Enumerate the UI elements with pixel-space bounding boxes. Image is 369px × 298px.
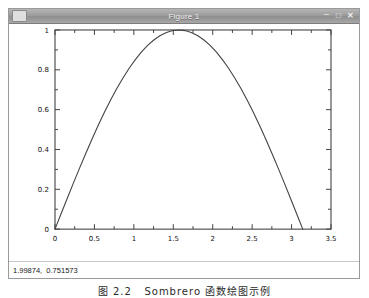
x-axis-tick-label: 2.5 xyxy=(247,235,258,243)
y-axis-tick-label: 0.2 xyxy=(38,186,49,194)
maximize-button[interactable]: □ xyxy=(334,12,343,20)
y-axis-tick-label: 0.4 xyxy=(38,146,50,154)
x-axis-tick-label: 1.5 xyxy=(168,235,179,243)
y-axis-tick-label: 0.6 xyxy=(38,106,49,114)
window-title-bar[interactable]: Figure 1 – □ ✕ xyxy=(9,9,359,24)
y-axis-tick-label: 0.8 xyxy=(38,66,49,74)
x-axis-tick-label: 0 xyxy=(53,235,57,243)
plot-canvas[interactable]: 00.511.522.533.500.20.40.60.81 xyxy=(9,24,359,261)
y-axis-tick-label: 1 xyxy=(45,27,49,35)
x-axis-tick-label: 3 xyxy=(289,235,293,243)
status-bar: 1.99874, 0.751573 xyxy=(9,261,359,278)
plot-root: 00.511.522.533.500.20.40.60.81 xyxy=(38,27,337,244)
cursor-coordinates-readout: 1.99874, 0.751573 xyxy=(13,266,78,275)
minimize-button[interactable]: – xyxy=(322,10,331,19)
window-title: Figure 1 xyxy=(9,12,359,21)
x-axis-tick-label: 3.5 xyxy=(325,235,336,243)
figure-window[interactable]: Figure 1 – □ ✕ 00.511.522.533.500.20.40.… xyxy=(8,8,360,279)
figure-client-area[interactable]: 00.511.522.533.500.20.40.60.81 xyxy=(9,24,359,261)
series-line-sin-x- xyxy=(55,30,303,229)
x-axis-tick-label: 2 xyxy=(210,235,214,243)
x-axis-tick-label: 1 xyxy=(132,235,136,243)
window-controls: – □ ✕ xyxy=(322,12,357,21)
figure-caption: 图 2.2 Sombrero 函数绘图示例 xyxy=(0,283,369,298)
y-axis-tick-label: 0 xyxy=(45,226,49,234)
close-button[interactable]: ✕ xyxy=(346,12,355,20)
x-axis-tick-label: 0.5 xyxy=(89,235,100,243)
window-menu-icon[interactable] xyxy=(12,10,27,22)
